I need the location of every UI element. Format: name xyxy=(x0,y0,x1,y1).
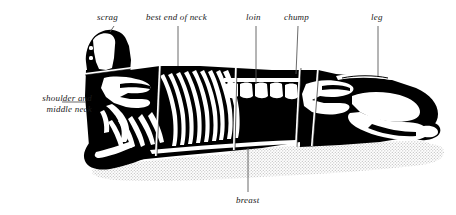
label-shoulder-line-1: shoulder and xyxy=(42,93,92,103)
label-shoulder-and-middle-neck: shoulder and middle neck xyxy=(6,93,92,115)
label-chump: chump xyxy=(284,12,309,23)
label-breast: breast xyxy=(236,195,259,206)
label-best-end-of-neck: best end of neck xyxy=(146,12,207,23)
label-scrag: scrag xyxy=(97,12,118,23)
diagram-canvas: scrag best end of neck loin chump leg sh… xyxy=(0,0,456,215)
leader-line-chump xyxy=(296,26,298,74)
label-loin: loin xyxy=(246,12,261,23)
label-shoulder-line-2: middle neck xyxy=(47,104,92,114)
label-leg: leg xyxy=(371,12,383,23)
